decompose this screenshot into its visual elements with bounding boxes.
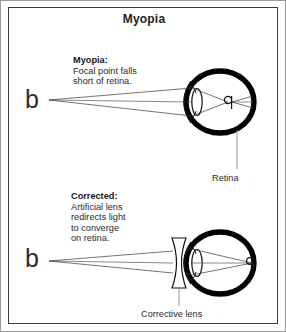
object-letter-top: b: [25, 87, 39, 112]
caption-corrected: Corrected:Artificial lens redirects ligh…: [71, 191, 126, 244]
label-retina: Retina: [212, 173, 239, 183]
figure-myopia: Myopia: [0, 0, 286, 332]
caption-corrected-body: Artificial lens redirects light to conve…: [71, 202, 126, 244]
caption-corrected-heading: Corrected:: [71, 191, 126, 202]
figure-inner-frame: [8, 7, 278, 324]
caption-myopia-body: Focal point falls short of retina.: [73, 66, 137, 87]
caption-myopia-heading: Myopia:: [73, 55, 137, 66]
label-corrective-lens: Corrective lens: [141, 309, 202, 319]
caption-myopia: Myopia:Focal point falls short of retina…: [73, 55, 137, 87]
object-letter-bottom: b: [25, 246, 39, 271]
figure-title: Myopia: [1, 12, 286, 26]
